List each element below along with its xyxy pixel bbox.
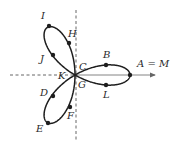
point-f-marker bbox=[68, 105, 72, 109]
point-a-label: A = M bbox=[136, 58, 170, 69]
point-g-label: G bbox=[78, 79, 86, 90]
point-i-marker bbox=[47, 24, 51, 28]
point-e-marker bbox=[46, 121, 50, 125]
point-d-label: D bbox=[39, 87, 48, 98]
point-h-marker bbox=[67, 41, 71, 45]
point-a-marker bbox=[128, 73, 132, 77]
point-h-label: H bbox=[67, 28, 77, 39]
axes bbox=[10, 10, 155, 140]
point-f-label: F bbox=[66, 110, 75, 121]
point-b-marker bbox=[104, 63, 108, 67]
three-leaf-rose-diagram: A = MBCDEFGHIJKL bbox=[0, 0, 170, 147]
point-j-label: J bbox=[38, 53, 45, 64]
point-d-marker bbox=[51, 94, 55, 98]
point-l-marker bbox=[104, 83, 108, 87]
point-l-label: L bbox=[102, 89, 110, 100]
point-b-label: B bbox=[102, 49, 110, 60]
point-k-label: K bbox=[57, 70, 66, 81]
point-i-label: I bbox=[40, 10, 46, 21]
point-c-label: C bbox=[79, 61, 87, 72]
point-j-marker bbox=[51, 53, 55, 57]
point-e-label: E bbox=[35, 123, 44, 134]
